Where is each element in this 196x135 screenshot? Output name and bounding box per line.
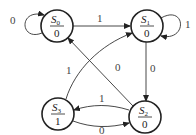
- label-s2-s3: 1: [99, 92, 105, 104]
- transition-s3-s1: [66, 33, 132, 99]
- state-s0-output: 0: [54, 27, 60, 39]
- state-s2: S2 0: [129, 101, 161, 133]
- state-s3: S3 1: [42, 98, 74, 130]
- state-s1: S1 0: [131, 10, 163, 42]
- state-s1-output: 0: [144, 27, 150, 39]
- state-s3-output: 1: [55, 115, 61, 127]
- state-diagram: 0 1 1 0 0 1 1 0 S0 0 S1 0 S2 0 S3 1: [0, 0, 196, 135]
- label-s3-s1: 1: [66, 64, 72, 76]
- label-s3-s2: 0: [99, 124, 105, 135]
- transition-s1-s1: [161, 15, 181, 37]
- label-s2-s0: 0: [115, 61, 121, 73]
- state-s2-output: 0: [142, 118, 148, 130]
- label-s0-s0: 0: [10, 14, 16, 26]
- transition-s2-s3: [74, 106, 129, 111]
- label-s0-s1: 1: [97, 12, 103, 24]
- label-s1-s2: 0: [150, 62, 156, 74]
- label-s1-s1: 1: [185, 18, 191, 30]
- state-s0: S0 0: [41, 10, 73, 42]
